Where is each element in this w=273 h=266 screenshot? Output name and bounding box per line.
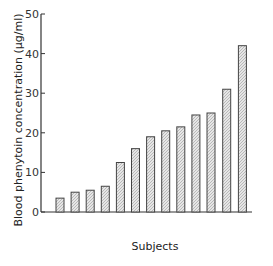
bar-subject-6 [132,149,140,212]
y-tick-label: 20 [25,127,39,140]
y-tick-label: 50 [25,8,39,21]
bar-subject-7 [147,137,155,212]
bar-subject-12 [223,89,231,212]
y-axis-title: Blood phenytoin concentration (µg/ml) [12,13,25,226]
bar-subject-11 [207,113,215,212]
bar-subject-1 [56,198,64,212]
bar-subject-10 [192,115,200,212]
y-tick-label: 30 [25,87,39,100]
bar-chart: 01020304050 Blood phenytoin concentratio… [0,0,273,266]
y-tick-label: 10 [25,166,39,179]
x-axis-title: Subjects [132,240,179,253]
bar-subject-9 [177,127,185,212]
bar-subject-4 [101,186,109,212]
bar-subject-3 [86,190,94,212]
y-axis: 01020304050 [25,8,45,219]
bar-subject-8 [162,131,170,212]
bar-subject-2 [71,192,79,212]
bar-subject-5 [116,163,124,213]
y-tick-label: 40 [25,48,39,61]
y-tick-label: 0 [32,206,39,219]
bars [56,46,246,212]
bar-subject-13 [238,46,246,212]
